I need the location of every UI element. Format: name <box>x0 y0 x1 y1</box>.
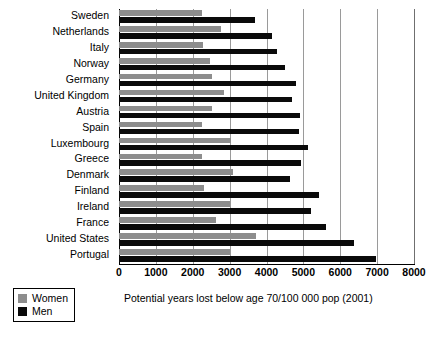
legend-item-women: Women <box>18 292 68 305</box>
bar-row <box>119 9 414 25</box>
category-label: Germany <box>66 72 109 88</box>
bar-row <box>119 137 414 153</box>
bar-men <box>119 256 376 262</box>
chart-figure: SwedenNetherlandsItalyNorwayGermanyUnite… <box>0 0 441 338</box>
bar-men <box>119 129 299 135</box>
x-axis-line <box>119 264 415 265</box>
bar-row <box>119 25 414 41</box>
x-tick-label: 5000 <box>292 266 315 278</box>
x-tick-label: 7000 <box>365 266 388 278</box>
bar-men <box>119 192 319 198</box>
category-label: Sweden <box>71 8 109 24</box>
bar-row <box>119 41 414 57</box>
bar-women <box>119 138 231 144</box>
legend: Women Men <box>13 288 75 322</box>
x-tick-label: 2000 <box>181 266 204 278</box>
legend-swatch-men <box>18 307 27 316</box>
bar-women <box>119 217 216 223</box>
legend-label-women: Women <box>32 292 68 305</box>
bar-row <box>119 105 414 121</box>
category-label: Portugal <box>70 247 109 263</box>
bar-men <box>119 160 301 166</box>
bar-women <box>119 201 230 207</box>
bar-row <box>119 248 414 264</box>
bar-rows <box>119 9 414 264</box>
bar-women <box>119 74 212 80</box>
bar-men <box>119 65 285 71</box>
category-label: Austria <box>76 104 109 120</box>
bar-women <box>119 185 204 191</box>
legend-swatch-women <box>18 294 27 303</box>
category-label: Norway <box>73 56 109 72</box>
category-axis: SwedenNetherlandsItalyNorwayGermanyUnite… <box>0 9 113 264</box>
bar-row <box>119 216 414 232</box>
bar-women <box>119 154 202 160</box>
bar-row <box>119 121 414 137</box>
bar-women <box>119 169 233 175</box>
bar-men <box>119 49 277 55</box>
bar-row <box>119 200 414 216</box>
bar-women <box>119 10 202 16</box>
bar-men <box>119 97 292 103</box>
bar-row <box>119 184 414 200</box>
bar-men <box>119 208 311 214</box>
bar-row <box>119 232 414 248</box>
bar-row <box>119 57 414 73</box>
x-tick-label: 1000 <box>144 266 167 278</box>
bar-row <box>119 89 414 105</box>
x-tick-label: 4000 <box>255 266 278 278</box>
category-label: Ireland <box>77 199 109 215</box>
x-tick-label: 3000 <box>218 266 241 278</box>
category-label: Finland <box>75 183 109 199</box>
category-label: Denmark <box>66 167 109 183</box>
bar-women <box>119 26 221 32</box>
bar-women <box>119 106 212 112</box>
category-label: Greece <box>75 151 109 167</box>
category-label: United States <box>46 231 109 247</box>
bar-row <box>119 168 414 184</box>
legend-label-men: Men <box>32 305 52 318</box>
plot-area <box>119 9 414 264</box>
bar-men <box>119 240 354 246</box>
x-axis-ticks: 010002000300040005000600070008000 <box>0 266 441 280</box>
category-label: Italy <box>90 40 109 56</box>
bar-men <box>119 176 290 182</box>
bar-women <box>119 233 256 239</box>
category-label: Spain <box>82 120 109 136</box>
gridline-8000 <box>414 9 415 264</box>
x-tick-label: 0 <box>116 266 122 278</box>
bar-women <box>119 42 203 48</box>
bar-men <box>119 145 308 151</box>
bar-women <box>119 122 202 128</box>
bar-women <box>119 249 230 255</box>
category-label: Luxembourg <box>51 136 109 152</box>
x-tick-label: 6000 <box>329 266 352 278</box>
category-label: Netherlands <box>52 24 109 40</box>
category-label: France <box>76 215 109 231</box>
bar-men <box>119 224 326 230</box>
bar-men <box>119 113 300 119</box>
bar-men <box>119 17 255 23</box>
legend-item-men: Men <box>18 305 68 318</box>
bar-women <box>119 58 210 64</box>
category-label: United Kingdom <box>34 88 109 104</box>
bar-men <box>119 81 296 87</box>
bar-women <box>119 90 224 96</box>
x-tick-label: 8000 <box>402 266 425 278</box>
bar-row <box>119 73 414 89</box>
x-axis-label: Potential years lost below age 70/100 00… <box>124 292 373 304</box>
bar-men <box>119 33 272 39</box>
bar-row <box>119 152 414 168</box>
